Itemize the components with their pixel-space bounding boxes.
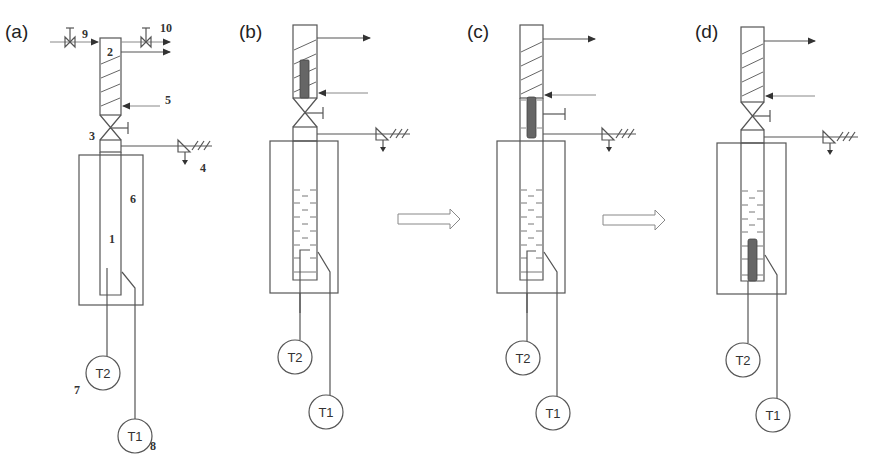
sensor-T1: T1 xyxy=(756,398,790,432)
sensor-T2: T2 7 xyxy=(74,356,120,397)
panel-b: (b) xyxy=(239,21,410,429)
outer-jacket xyxy=(497,141,565,293)
ground-vent-icon: 4 xyxy=(178,140,212,175)
inner-tube xyxy=(100,152,121,295)
side-inlet-arrow: 5 xyxy=(123,93,171,107)
panel-label-b: (b) xyxy=(239,21,262,42)
transition-arrow-b-to-c xyxy=(398,209,460,229)
panel-d: (d) xyxy=(695,21,858,432)
svg-text:T2: T2 xyxy=(515,351,530,366)
ground-vent-icon xyxy=(602,128,636,152)
sensor-T2: T2 xyxy=(726,343,760,377)
sensor-T2: T2 xyxy=(278,340,312,374)
sensor-T1: T1 xyxy=(309,395,343,429)
panel-label-a: (a) xyxy=(5,21,28,42)
label-7: 7 xyxy=(74,383,80,397)
panel-label-c: (c) xyxy=(467,21,489,42)
sensor-T1: T1 xyxy=(536,396,570,430)
label-10: 10 xyxy=(160,21,172,35)
label-5: 5 xyxy=(165,93,171,107)
label-3: 3 xyxy=(89,129,95,143)
apparatus-diagram: (a) 9 2 xyxy=(0,0,879,466)
outlet-lines: 10 xyxy=(121,21,172,52)
panel-a: (a) 9 2 xyxy=(5,21,212,453)
inlet-valve-icon xyxy=(65,28,75,47)
svg-text:T1: T1 xyxy=(545,406,560,421)
liquid-level xyxy=(521,190,542,272)
sample-rod xyxy=(300,60,309,98)
outer-jacket xyxy=(79,155,143,305)
svg-text:T2: T2 xyxy=(735,353,750,368)
svg-text:T2: T2 xyxy=(95,366,110,381)
label-1: 1 xyxy=(109,232,115,246)
ground-vent-icon xyxy=(823,131,858,155)
label-4: 4 xyxy=(200,161,206,175)
hatched-column: 2 xyxy=(100,38,121,115)
sensor-T2: T2 xyxy=(506,341,540,375)
svg-text:T1: T1 xyxy=(318,405,333,420)
outer-jacket xyxy=(270,141,338,293)
svg-text:T1: T1 xyxy=(127,429,142,444)
panel-label-d: (d) xyxy=(695,21,718,42)
inlet-line: 9 xyxy=(50,27,98,47)
sample-rod xyxy=(527,97,536,138)
outlet-valve-icon xyxy=(141,28,151,47)
label-8: 8 xyxy=(150,439,156,453)
liquid-level xyxy=(294,190,316,272)
label-6: 6 xyxy=(130,192,136,206)
svg-text:T2: T2 xyxy=(287,350,302,365)
transition-arrow-c-to-d xyxy=(603,210,665,230)
label-9: 9 xyxy=(82,27,88,41)
label-2: 2 xyxy=(107,45,113,59)
svg-text:T1: T1 xyxy=(765,408,780,423)
ground-vent-icon xyxy=(376,128,410,152)
sensor-T1: T1 8 xyxy=(118,419,156,453)
sample-rod xyxy=(748,239,757,281)
ball-valve: 3 xyxy=(89,115,128,143)
